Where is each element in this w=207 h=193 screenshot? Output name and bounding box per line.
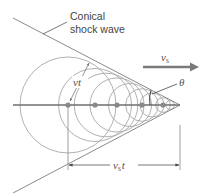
angle-label: θ bbox=[179, 76, 185, 88]
shock-wave-diagram: Conical shock wave vs vt θ vst bbox=[0, 0, 207, 193]
shock-cone-lower bbox=[13, 105, 180, 193]
source-dot bbox=[160, 102, 165, 107]
source-dot bbox=[139, 102, 144, 107]
radius-label: vt bbox=[73, 76, 82, 88]
source-dot bbox=[92, 102, 97, 107]
shock-label-line1: Conical bbox=[70, 10, 105, 22]
velocity-arrowhead-icon bbox=[190, 63, 199, 72]
shock-label-leader bbox=[43, 22, 67, 34]
shock-label-line2: shock wave bbox=[70, 23, 125, 35]
source-dot bbox=[114, 102, 119, 107]
angle-leader bbox=[152, 84, 177, 94]
velocity-label: vs bbox=[161, 51, 169, 65]
source-dot bbox=[65, 102, 70, 107]
distance-label: vst bbox=[113, 159, 126, 173]
